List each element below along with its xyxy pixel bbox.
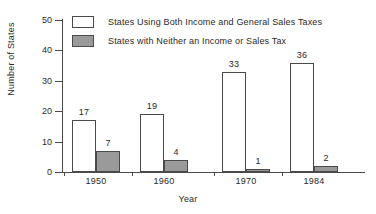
y-tick-label-40: 40: [16, 45, 52, 55]
bar-1950-series2: [96, 151, 120, 172]
bar-value-1950-series2: 7: [93, 138, 123, 148]
y-tick-10: [55, 142, 62, 143]
y-tick-label-10: 10: [16, 137, 52, 147]
x-axis-label-1950: 1950: [76, 176, 116, 186]
x-axis-title: Year: [0, 194, 376, 204]
y-axis-title: Number of States: [6, 4, 16, 114]
bar-value-1970-series2: 1: [243, 156, 273, 166]
bar-value-1970-series1: 33: [219, 59, 249, 69]
x-tick-1970: [214, 172, 215, 176]
y-tick-50: [55, 20, 62, 21]
y-tick-label-30: 30: [16, 76, 52, 86]
x-axis-label-1970: 1970: [226, 176, 266, 186]
bar-chart: States Using Both Income and General Sal…: [0, 0, 376, 214]
y-tick-label-50: 50: [16, 15, 52, 25]
bar-1960-series2: [164, 160, 188, 172]
bar-value-1984-series1: 36: [287, 50, 317, 60]
bar-value-1960-series1: 19: [137, 101, 167, 111]
x-tick-1950: [64, 172, 65, 176]
y-tick-label-20: 20: [16, 106, 52, 116]
x-axis-label-1984: 1984: [294, 176, 334, 186]
x-tick-1984: [282, 172, 283, 176]
y-tick-0: [55, 172, 62, 173]
bar-value-1960-series2: 4: [161, 147, 191, 157]
y-tick-20: [55, 111, 62, 112]
x-tick-1960: [132, 172, 133, 176]
bar-value-1984-series2: 2: [311, 153, 341, 163]
bar-1970-series2: [246, 169, 270, 172]
plot-area: 177194331362: [62, 20, 365, 172]
x-axis-label-1960: 1960: [144, 176, 184, 186]
bar-1960-series1: [140, 114, 164, 172]
bar-value-1950-series1: 17: [69, 107, 99, 117]
y-tick-30: [55, 81, 62, 82]
y-tick-label-0: 0: [16, 167, 52, 177]
bar-1984-series2: [314, 166, 338, 172]
y-tick-40: [55, 50, 62, 51]
